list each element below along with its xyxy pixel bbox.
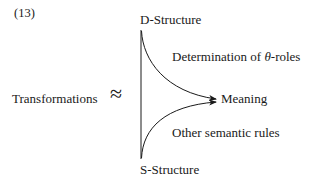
diagram-lines: [0, 0, 327, 186]
arrow-d-structure-to-meaning: [142, 31, 217, 99]
arrow-s-structure-to-meaning: [142, 102, 217, 158]
